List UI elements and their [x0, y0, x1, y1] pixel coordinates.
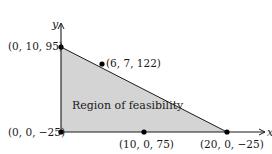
- point-label-20-0-neg25: (20, 0, −25): [200, 138, 264, 150]
- point-marker-6-7-122: [99, 61, 104, 66]
- point-marker-10-0-75: [141, 129, 146, 134]
- point-label-6-7-122: (6, 7, 122): [106, 57, 161, 69]
- feasibility-diagram: y x (0, 10, 95) (6, 7, 122) (0, 0, −25) …: [0, 0, 272, 154]
- point-label-10-0-75: (10, 0, 75): [119, 138, 174, 150]
- y-axis-label: y: [51, 18, 59, 31]
- point-marker-20-0-neg25: [224, 129, 229, 134]
- region-label: Region of feasibility: [72, 99, 184, 112]
- point-label-0-10-95: (0, 10, 95): [8, 40, 63, 52]
- point-label-0-0-neg25: (0, 0, −25): [8, 126, 65, 138]
- x-axis-label: x: [267, 126, 272, 139]
